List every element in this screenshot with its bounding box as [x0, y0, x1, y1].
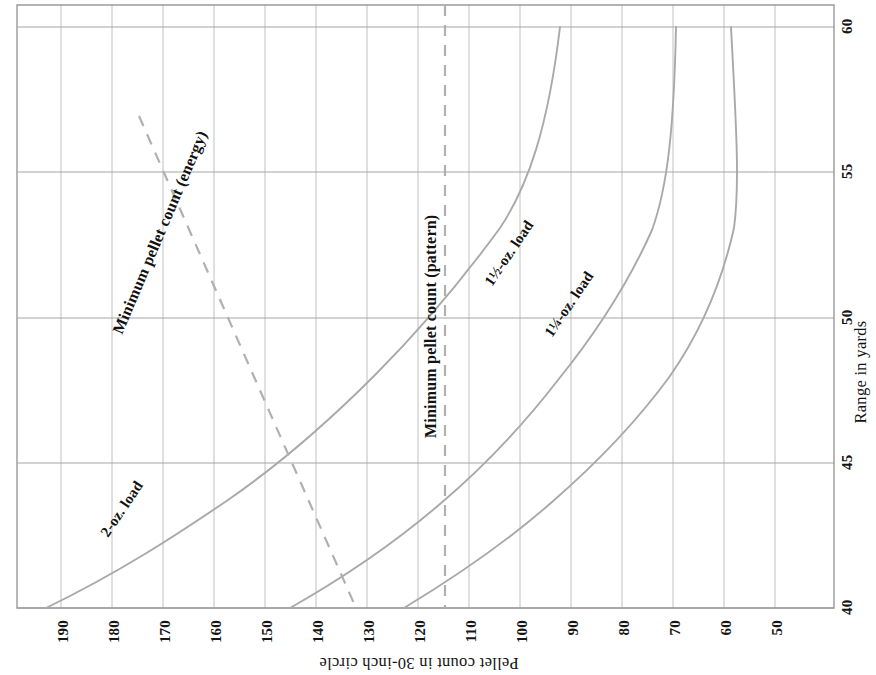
xtick-55: 55	[839, 164, 855, 179]
ytick-70: 70	[667, 620, 683, 635]
shotgun-pattern-density-chart: 2-oz. load 1½-oz. load 1¼-oz. load Minim…	[0, 0, 876, 675]
pellet-count-tick-labels: 190 180 170 160 150 140 130 120 110 100 …	[55, 620, 785, 643]
xtick-60: 60	[839, 19, 855, 34]
x-axis-title: Range in yards	[851, 320, 870, 423]
ytick-80: 80	[616, 620, 632, 635]
ytick-170: 170	[157, 620, 173, 643]
reference-label-pattern: Minimum pellet count (pattern)	[422, 215, 440, 438]
ytick-180: 180	[106, 620, 122, 643]
chart-figure: 2-oz. load 1½-oz. load 1¼-oz. load Minim…	[0, 0, 876, 675]
ytick-150: 150	[259, 620, 275, 643]
range-tick-labels: 40 45 50 55 60	[839, 19, 855, 615]
ytick-60: 60	[718, 620, 734, 635]
ytick-140: 140	[310, 620, 326, 643]
xtick-40: 40	[839, 600, 855, 615]
ytick-190: 190	[55, 620, 71, 643]
ytick-160: 160	[208, 620, 224, 643]
y-axis-title: Pellet count in 30-inch circle	[319, 654, 519, 673]
ytick-50: 50	[769, 620, 785, 635]
ytick-130: 130	[361, 620, 377, 643]
ytick-100: 100	[514, 620, 530, 643]
ytick-120: 120	[412, 620, 428, 643]
ytick-90: 90	[565, 620, 581, 635]
xtick-45: 45	[839, 455, 855, 470]
ytick-110: 110	[463, 620, 479, 642]
